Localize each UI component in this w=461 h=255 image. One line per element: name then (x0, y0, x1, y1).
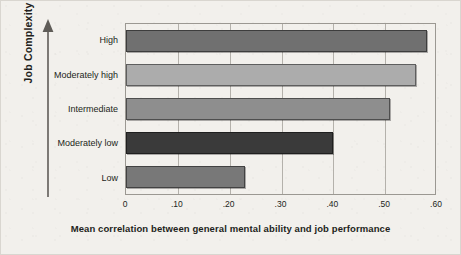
x-axis-tick-labels: 0.10.20.30.40.50.60 (125, 199, 436, 213)
x-tick-.40: .40 (326, 199, 338, 209)
bar-low (126, 166, 245, 188)
category-label-moderately-low: Moderately low (55, 126, 123, 160)
chart-figure: Job Complexity High Moderately high Inte… (0, 0, 461, 255)
x-tick-.10: .10 (171, 199, 183, 209)
bar-row (126, 58, 435, 92)
x-tick-.50: .50 (378, 199, 390, 209)
category-label-list: High Moderately high Intermediate Modera… (55, 23, 123, 195)
bar-row (126, 160, 435, 194)
category-label-high: High (55, 23, 123, 57)
bar-series (126, 24, 435, 194)
bar-intermediate (126, 98, 390, 120)
x-axis-title: Mean correlation between general mental … (1, 223, 460, 234)
bar-moderately-high (126, 64, 416, 86)
x-tick-.60: .60 (430, 199, 442, 209)
category-label-moderately-high: Moderately high (55, 57, 123, 91)
x-tick-0: 0 (123, 199, 128, 209)
bar-row (126, 24, 435, 58)
category-label-intermediate: Intermediate (55, 92, 123, 126)
x-tick-.30: .30 (275, 199, 287, 209)
y-axis-arrow-icon (41, 19, 55, 197)
bar-high (126, 30, 427, 52)
category-label-low: Low (55, 161, 123, 195)
plot-area (125, 23, 436, 195)
bar-moderately-low (126, 132, 333, 154)
bar-row (126, 126, 435, 160)
x-tick-.20: .20 (223, 199, 235, 209)
y-axis-title: Job Complexity (22, 0, 34, 116)
bar-row (126, 92, 435, 126)
